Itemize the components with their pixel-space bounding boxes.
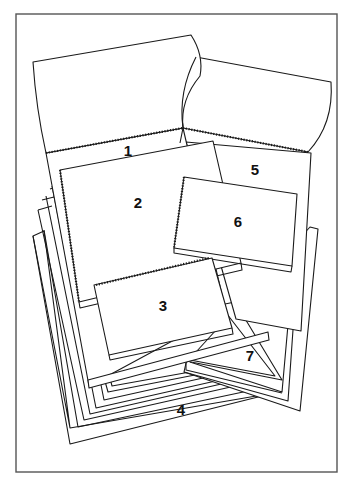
- callout-label-5: 5: [251, 162, 259, 177]
- notebook-stack-diagram: 1 2 3 4 5 6 7: [0, 0, 350, 478]
- callout-label-4: 4: [177, 402, 185, 417]
- callout-label-3: 3: [159, 298, 167, 313]
- callout-label-2: 2: [134, 195, 142, 210]
- callout-label-7: 7: [246, 348, 254, 363]
- callout-label-1: 1: [124, 143, 132, 158]
- diagram-canvas: [0, 0, 350, 478]
- callout-label-6: 6: [234, 214, 242, 229]
